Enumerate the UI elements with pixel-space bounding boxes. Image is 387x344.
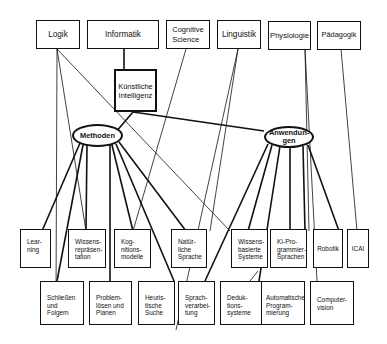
label-wissensbasierte-systeme: Wissens- basierte Systeme bbox=[238, 238, 264, 260]
box-automatische-programmierung: Automatische Program- mierung bbox=[261, 281, 305, 325]
box-wissensrepraesentation: Wissens- repräsen- tation bbox=[68, 229, 106, 268]
box-icai: ICAI bbox=[347, 229, 369, 268]
label-automatische-programmierung: Automatische Program- mierung bbox=[266, 294, 305, 316]
box-learning: Lear- ning bbox=[20, 229, 51, 268]
box-logik: Logik bbox=[36, 20, 80, 49]
box-sprachverarbeitung: Sprach- verarbei- tung bbox=[178, 281, 215, 325]
label-deduktionssysteme: Deduk- tions- systeme bbox=[227, 294, 251, 316]
label-wissensrepraesentation: Wissens- repräsen- tation bbox=[75, 238, 102, 260]
label-icai: ICAI bbox=[352, 245, 364, 253]
label-physiologie: Physiologie bbox=[270, 31, 309, 40]
box-linguistik: Linguistik bbox=[217, 20, 261, 49]
label-informatik: Informatik bbox=[105, 30, 141, 40]
label-cognitive-science: Cognitive Science bbox=[172, 25, 204, 43]
box-heuristische-suche: Heuris- tische Suche bbox=[138, 281, 175, 325]
box-paedagogik: Pädagogik bbox=[317, 21, 361, 50]
box-deduktionssysteme: Deduk- tions- systeme bbox=[220, 281, 262, 325]
box-robotik: Robotik bbox=[313, 229, 343, 268]
box-kognitionsmodelle: Kog- nitions- modelle bbox=[114, 229, 151, 268]
box-wissensbasierte-systeme: Wissens- basierte Systeme bbox=[231, 229, 268, 268]
label-ki-programmiersprachen: KI-Pro- grammier- Sprachen bbox=[277, 238, 306, 260]
box-problemloesen-planen: Problem- lösen und Planen bbox=[89, 281, 132, 325]
box-schliessen-folgern: Schließen und Folgern bbox=[40, 281, 84, 325]
label-kuenstliche-intelligenz: Künstliche Intelligenz bbox=[118, 82, 153, 100]
hub-methoden: Methoden bbox=[72, 124, 123, 147]
label-problemloesen-planen: Problem- lösen und Planen bbox=[96, 294, 124, 316]
hub-anwendungen: Anwendun- gen bbox=[264, 126, 314, 148]
label-learning: Lear- ning bbox=[27, 238, 42, 253]
box-cognitive-science: Cognitive Science bbox=[166, 20, 210, 49]
box-natuerliche-sprache: Natür- liche Sprache bbox=[171, 229, 207, 268]
label-schliessen-folgern: Schließen und Folgern bbox=[47, 294, 75, 316]
label-heuristische-suche: Heuris- tische Suche bbox=[145, 294, 166, 316]
box-computervision: Computer- vision bbox=[310, 281, 354, 325]
label-methoden: Methoden bbox=[80, 132, 115, 140]
box-kuenstliche-intelligenz: Künstliche Intelligenz bbox=[114, 69, 157, 112]
label-logik: Logik bbox=[48, 30, 68, 40]
label-sprachverarbeitung: Sprach- verarbei- tung bbox=[185, 294, 210, 316]
box-informatik: Informatik bbox=[87, 20, 159, 49]
label-robotik: Robotik bbox=[317, 245, 339, 253]
label-computervision: Computer- vision bbox=[317, 296, 347, 311]
label-linguistik: Linguistik bbox=[222, 30, 256, 40]
label-kognitionsmodelle: Kog- nitions- modelle bbox=[121, 238, 143, 260]
label-paedagogik: Pädagogik bbox=[322, 31, 357, 40]
label-anwendungen: Anwendun- gen bbox=[269, 129, 309, 145]
box-ki-programmiersprachen: KI-Pro- grammier- Sprachen bbox=[270, 229, 307, 268]
label-natuerliche-sprache: Natür- liche Sprache bbox=[178, 238, 202, 260]
box-physiologie: Physiologie bbox=[268, 21, 311, 50]
